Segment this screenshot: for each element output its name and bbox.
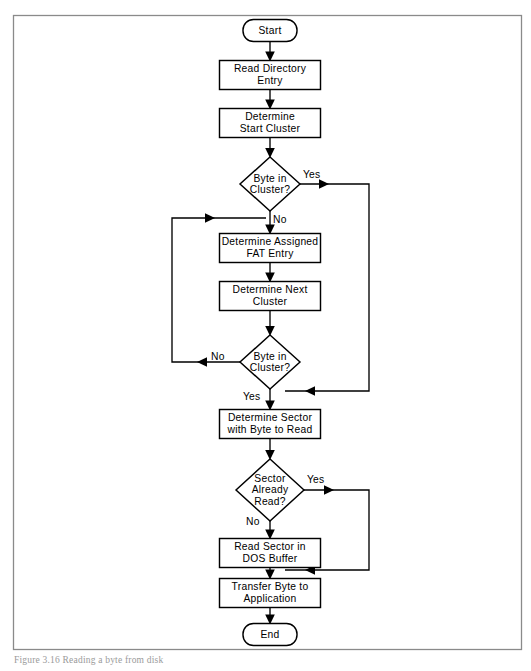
- node-determine-start-cluster[interactable]: Determine Start Cluster: [220, 109, 321, 138]
- determine-assigned-fat-entry-label-line-1: Determine Assigned: [222, 236, 319, 247]
- read-directory-entry-label-line-2: Entry: [257, 75, 283, 86]
- edge-byte-in-cluster-2-yes: [265, 389, 275, 411]
- determine-start-cluster-label-line-2: Start Cluster: [240, 123, 301, 134]
- node-byte-in-cluster-2[interactable]: Byte in Cluster?: [240, 335, 300, 389]
- flowchart-diagram: Start Read Directory Entry Determine Sta…: [0, 0, 531, 671]
- determine-sector-with-byte-label-line-2: with Byte to Read: [227, 424, 313, 435]
- determine-start-cluster-label-line-1: Determine: [245, 111, 295, 122]
- sector-already-read-label-line-1: Sector: [254, 473, 286, 484]
- node-transfer-byte-to-application[interactable]: Transfer Byte to Application: [220, 579, 321, 608]
- sector-already-read-label-line-2: Already: [252, 484, 289, 495]
- node-determine-assigned-fat-entry[interactable]: Determine Assigned FAT Entry: [220, 234, 321, 263]
- determine-next-cluster-label-line-1: Determine Next: [232, 284, 307, 295]
- node-read-sector-in-dos-buffer[interactable]: Read Sector in DOS Buffer: [220, 539, 321, 568]
- edge-determine-start-cluster-to-byte-in-cluster-1: [265, 138, 275, 158]
- edge-label-no-2: No: [211, 351, 225, 362]
- edge-label-yes-3: Yes: [307, 474, 324, 485]
- node-end[interactable]: End: [243, 624, 297, 646]
- determine-sector-with-byte-label-line-1: Determine Sector: [228, 412, 312, 423]
- byte-in-cluster-1-label-line-1: Byte in: [253, 173, 286, 184]
- edge-transfer-byte-to-end: [265, 608, 275, 625]
- edge-sector-already-read-no: [265, 521, 275, 540]
- edge-label-yes-2: Yes: [243, 391, 260, 402]
- sector-already-read-label-line-3: Read?: [254, 496, 286, 507]
- edge-label-yes-1: Yes: [303, 169, 320, 180]
- end-label: End: [260, 629, 279, 640]
- transfer-byte-to-application-label-line-2: Application: [243, 593, 296, 604]
- edge-determine-sector-with-byte-to-sector-already-read: [265, 439, 275, 460]
- transfer-byte-to-application-label-line-1: Transfer Byte to: [232, 581, 309, 592]
- byte-in-cluster-2-label-line-2: Cluster?: [250, 362, 290, 373]
- figure-caption: Figure 3.16 Reading a byte from disk: [14, 655, 163, 665]
- edge-read-directory-entry-to-determine-start-cluster: [265, 90, 275, 110]
- determine-next-cluster-label-line-2: Cluster: [253, 296, 288, 307]
- byte-in-cluster-1-label-line-2: Cluster?: [250, 184, 290, 195]
- edge-start-to-read-directory-entry: [265, 42, 275, 62]
- read-sector-in-dos-buffer-label-line-1: Read Sector in: [234, 541, 306, 552]
- edge-label-no-1: No: [273, 214, 287, 225]
- byte-in-cluster-2-label-line-1: Byte in: [253, 351, 286, 362]
- read-directory-entry-label-line-1: Read Directory: [234, 63, 307, 74]
- node-sector-already-read[interactable]: Sector Already Read?: [236, 459, 304, 521]
- edge-determine-assigned-fat-entry-to-determine-next-cluster: [265, 263, 275, 283]
- read-sector-in-dos-buffer-label-line-2: DOS Buffer: [243, 553, 298, 564]
- node-determine-next-cluster[interactable]: Determine Next Cluster: [220, 282, 321, 311]
- node-byte-in-cluster-1[interactable]: Byte in Cluster?: [240, 157, 300, 211]
- node-read-directory-entry[interactable]: Read Directory Entry: [220, 61, 321, 90]
- edge-determine-next-cluster-to-byte-in-cluster-2: [265, 311, 275, 336]
- node-determine-sector-with-byte[interactable]: Determine Sector with Byte to Read: [220, 410, 321, 439]
- edge-label-no-3: No: [246, 516, 260, 527]
- figure-root: Start Read Directory Entry Determine Sta…: [0, 0, 531, 671]
- start-label: Start: [259, 25, 282, 36]
- node-start[interactable]: Start: [243, 20, 297, 42]
- determine-assigned-fat-entry-label-line-2: FAT Entry: [246, 248, 294, 259]
